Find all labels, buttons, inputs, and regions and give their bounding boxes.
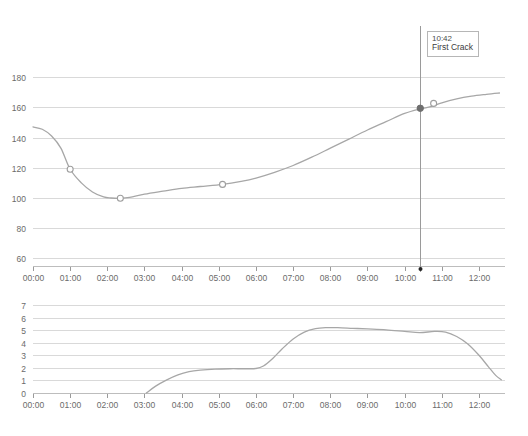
y-tick-label: 0 — [21, 389, 26, 399]
x-tick-label: 03:00 — [134, 400, 156, 410]
y-tick-label: 3 — [21, 351, 26, 361]
x-tick-label: 08:00 — [320, 273, 342, 283]
first-crack-tooltip[interactable]: 10:42 First Crack — [427, 31, 479, 57]
x-tick-label: 02:00 — [97, 273, 119, 283]
series-path — [33, 93, 499, 198]
roast-profile-screen: 6080100120140160180 00:0001:0002:0003:00… — [0, 0, 528, 436]
rate-of-rise-chart[interactable]: 01234567 00:0001:0002:0003:0004:0005:000… — [0, 292, 528, 420]
data-marker[interactable] — [67, 166, 73, 172]
y-tick-label: 1 — [21, 376, 26, 386]
x-tick-label: 05:00 — [209, 400, 231, 410]
ror-gridlines — [33, 306, 505, 394]
x-tick-label: 10:00 — [395, 400, 417, 410]
y-tick-label: 120 — [12, 164, 26, 174]
y-tick-label: 4 — [21, 339, 26, 349]
data-marker[interactable] — [117, 195, 123, 201]
x-tick-label: 12:00 — [469, 400, 491, 410]
y-tick-label: 180 — [12, 73, 26, 83]
ror-ylabels: 01234567 — [21, 301, 26, 399]
x-tick-label: 01:00 — [60, 400, 82, 410]
y-tick-label: 80 — [17, 224, 27, 234]
x-tick-label: 12:00 — [469, 273, 491, 283]
y-tick-label: 2 — [21, 364, 26, 374]
x-tick-label: 10:00 — [395, 273, 417, 283]
x-tick-label: 06:00 — [246, 400, 268, 410]
ror-xaxis — [33, 394, 505, 399]
x-tick-label: 03:00 — [134, 273, 156, 283]
temperature-ylabels: 6080100120140160180 — [12, 73, 26, 264]
first-crack-event-line[interactable] — [419, 26, 423, 272]
y-tick-label: 140 — [12, 134, 26, 144]
rate-of-rise-chart-svg: 01234567 00:0001:0002:0003:0004:0005:000… — [0, 292, 528, 420]
x-tick-label: 08:00 — [320, 400, 342, 410]
y-tick-label: 6 — [21, 314, 26, 324]
x-tick-label: 07:00 — [283, 273, 305, 283]
tooltip-label: First Crack — [432, 43, 473, 53]
x-tick-label: 01:00 — [60, 273, 82, 283]
event-axis-dot — [419, 267, 423, 271]
x-tick-label: 09:00 — [357, 273, 379, 283]
series-path — [146, 328, 501, 393]
data-marker-filled[interactable] — [417, 105, 423, 111]
x-tick-label: 04:00 — [172, 400, 194, 410]
x-tick-label: 00:00 — [23, 273, 45, 283]
x-tick-label: 02:00 — [97, 400, 119, 410]
data-marker[interactable] — [220, 181, 226, 187]
temperature-xlabels: 00:0001:0002:0003:0004:0005:0006:0007:00… — [23, 273, 491, 283]
y-tick-label: 60 — [17, 254, 27, 264]
temperature-xaxis — [33, 267, 505, 272]
x-tick-label: 07:00 — [283, 400, 305, 410]
x-tick-label: 11:00 — [432, 400, 453, 410]
ror-xlabels: 00:0001:0002:0003:0004:0005:0006:0007:00… — [23, 400, 491, 410]
x-tick-label: 11:00 — [432, 273, 453, 283]
x-tick-label: 05:00 — [209, 273, 231, 283]
x-tick-label: 06:00 — [246, 273, 268, 283]
x-tick-label: 00:00 — [23, 400, 45, 410]
ror-series-line — [146, 328, 501, 393]
y-tick-label: 100 — [12, 194, 26, 204]
y-tick-label: 7 — [21, 301, 26, 311]
y-tick-label: 5 — [21, 326, 26, 336]
x-tick-label: 09:00 — [357, 400, 379, 410]
x-tick-label: 04:00 — [172, 273, 194, 283]
temperature-series-line — [33, 93, 499, 198]
y-tick-label: 160 — [12, 103, 26, 113]
temperature-data-markers[interactable] — [67, 100, 436, 201]
data-marker[interactable] — [431, 100, 437, 106]
